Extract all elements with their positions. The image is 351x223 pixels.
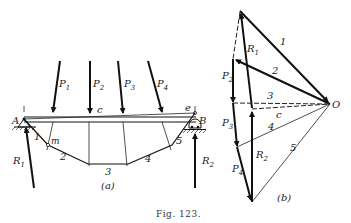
label-pole-o: O xyxy=(332,99,340,110)
label-p4: P4 xyxy=(156,78,168,92)
ray-c-closing xyxy=(252,104,330,109)
label-ray-2: 2 xyxy=(271,65,278,76)
label-r2: R2 xyxy=(201,155,215,169)
part-b-force-polygon: O R1 P2 P3 P4 R2 1 2 3 c 4 5 (b) xyxy=(221,11,340,203)
ray-1 xyxy=(240,11,328,102)
force-p3-vector xyxy=(233,103,237,146)
label-ray-1: 1 xyxy=(280,36,286,47)
label-c-closing: c xyxy=(97,104,103,115)
load-line-dashed xyxy=(233,12,240,59)
label-p1: P1 xyxy=(58,78,70,92)
figure-123: A B e c m P1 P2 P3 P4 R1 R2 1 2 3 4 5 (a… xyxy=(0,0,351,223)
point-m xyxy=(46,143,49,146)
label-r2-b: R2 xyxy=(255,149,269,163)
label-segment-5: 5 xyxy=(176,135,182,146)
ray-3-dashed xyxy=(233,103,330,104)
label-m: m xyxy=(51,136,60,146)
label-part-b: (b) xyxy=(277,192,291,203)
closing-line-c xyxy=(24,113,195,119)
label-b-support: B xyxy=(198,115,206,126)
label-ray-4: 4 xyxy=(267,121,274,132)
label-p3: P3 xyxy=(123,78,136,92)
load-p3-arrow xyxy=(118,61,123,113)
label-segment-3: 3 xyxy=(105,166,111,177)
figure-caption: Fig. 123. xyxy=(156,209,201,219)
label-p2: P2 xyxy=(92,78,105,92)
reaction-r1-arrow xyxy=(26,128,34,188)
label-r1: R1 xyxy=(12,155,25,169)
label-p2-b: P2 xyxy=(221,70,234,84)
label-ray-c: c xyxy=(276,109,282,120)
label-p3-b: P3 xyxy=(221,117,234,131)
label-segment-1: 1 xyxy=(34,131,40,142)
label-r1-b: R1 xyxy=(246,43,259,57)
label-part-a: (a) xyxy=(101,180,115,191)
label-e: e xyxy=(185,102,191,113)
ray-4 xyxy=(237,104,330,147)
label-segment-4: 4 xyxy=(144,153,151,164)
label-a-support: A xyxy=(11,115,19,126)
part-a-space-diagram: A B e c m P1 P2 P3 P4 R1 R2 1 2 3 4 5 (a… xyxy=(11,61,215,191)
force-r1-vector xyxy=(241,14,252,108)
ray-5 xyxy=(252,104,330,202)
label-segment-2: 2 xyxy=(59,151,66,162)
label-ray-3: 3 xyxy=(267,90,273,101)
label-ray-5: 5 xyxy=(290,142,296,153)
p3-line-of-action xyxy=(123,122,127,166)
